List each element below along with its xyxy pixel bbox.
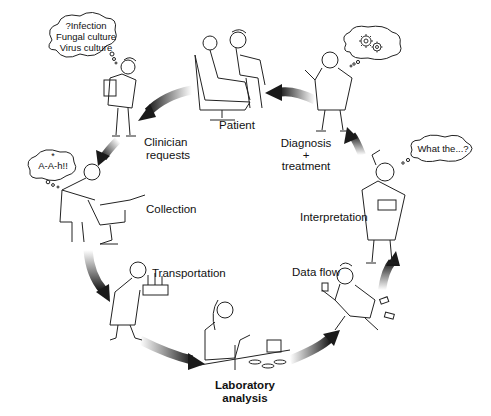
label-laboratory-analysis: Laboratory analysis <box>200 379 290 405</box>
diagram-artwork <box>0 0 491 416</box>
label-clinician-requests: Clinician requests <box>144 136 190 162</box>
label-laboratory: Laboratory <box>200 379 290 392</box>
arrow-dataflow-to-interpretation <box>382 251 400 290</box>
arrow-lab-to-dataflow <box>290 330 340 360</box>
clinician-figure <box>104 58 136 136</box>
lab-cycle-diagram: ?Infection Fungal culture Virus culture … <box>0 0 491 416</box>
label-transportation: Transportation <box>152 267 226 280</box>
thought-line-infection: ?Infection <box>54 20 118 31</box>
laboratory-figure <box>200 300 290 370</box>
label-interpretation: Interpretation <box>300 211 368 224</box>
label-treatment: treatment <box>276 160 336 173</box>
collection-figure <box>60 164 145 244</box>
label-diagnosis-treatment: Diagnosis + treatment <box>276 137 336 173</box>
arrow-collection-to-transportation <box>88 250 110 302</box>
label-collection: Collection <box>146 203 197 216</box>
label-analysis: analysis <box>200 392 290 405</box>
label-requests: requests <box>144 149 190 162</box>
star-glyph: * <box>30 152 76 160</box>
arrow-patient-to-clinician <box>138 90 192 121</box>
interpretation-figure <box>362 150 405 263</box>
interpretation-thought-text: What the...? <box>414 143 472 154</box>
clinician-thought-text: ?Infection Fungal culture Virus culture <box>54 20 118 53</box>
thought-line-fungal: Fungal culture <box>54 31 118 42</box>
diagnosis-figure <box>305 52 352 131</box>
label-plus: + <box>276 150 336 160</box>
label-clinician: Clinician <box>144 136 190 149</box>
arrow-diagnosis-to-patient <box>265 84 315 101</box>
label-patient: Patient <box>212 119 262 132</box>
thought-line-virus: Virus culture <box>54 42 118 53</box>
patient-figure <box>195 30 265 120</box>
collection-thought-text: * A-A-h!! <box>30 152 76 171</box>
label-data-flow: Data flow <box>292 266 340 279</box>
arrow-transportation-to-lab <box>140 340 205 370</box>
thought-line-aah: A-A-h!! <box>30 160 76 171</box>
arrow-clinician-to-collection <box>96 140 118 166</box>
